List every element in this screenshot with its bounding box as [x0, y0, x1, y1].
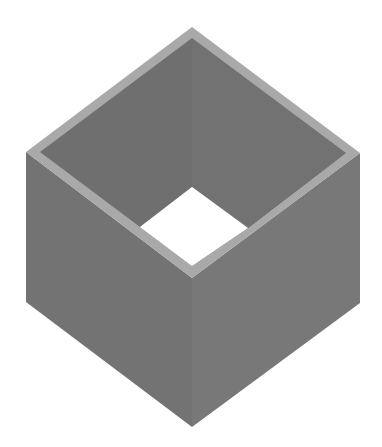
figure-canvas	[0, 0, 382, 447]
open-box-icon	[0, 0, 382, 447]
